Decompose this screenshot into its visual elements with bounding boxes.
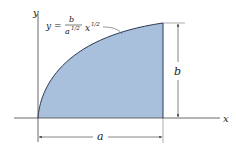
equation-x: x (85, 23, 90, 33)
diagram-canvas: x y y = b a 1/2 x 1/2 b a (0, 0, 236, 151)
equation-denominator-base: a (65, 27, 70, 36)
x-axis-label: x (223, 113, 229, 124)
equation-numerator: b (69, 15, 74, 24)
equation-x-exp: 1/2 (91, 21, 100, 27)
a-dimension-label: a (97, 130, 104, 143)
equation-lhs: y = (45, 21, 62, 31)
b-dimension-label: b (174, 65, 181, 78)
equation-denominator-exp: 1/2 (71, 25, 80, 31)
y-axis-label: y (32, 7, 39, 18)
shaded-area (38, 23, 163, 118)
